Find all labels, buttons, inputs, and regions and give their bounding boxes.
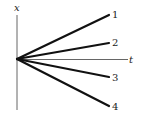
x-axis-label: x <box>14 3 20 13</box>
line-4-label: 4 <box>112 102 118 112</box>
line-2 <box>17 43 109 59</box>
graph-canvas <box>0 0 144 117</box>
line-2-label: 2 <box>112 38 118 48</box>
xt-graph: x t 1 2 3 4 <box>0 0 144 117</box>
t-axis-label: t <box>129 55 133 65</box>
line-3 <box>17 59 109 77</box>
line-3-label: 3 <box>112 73 118 83</box>
line-1-label: 1 <box>112 10 118 20</box>
line-1 <box>17 15 109 59</box>
line-4 <box>17 59 109 106</box>
